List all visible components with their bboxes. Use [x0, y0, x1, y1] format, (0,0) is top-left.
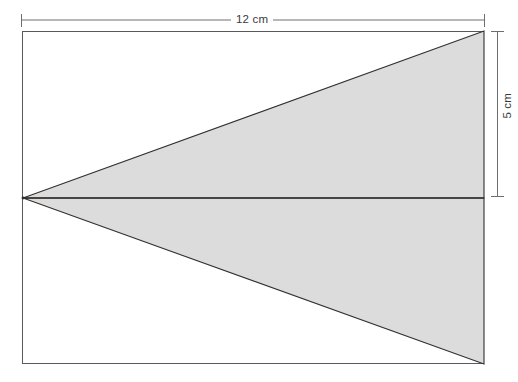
apex-point [22, 197, 25, 200]
width-dimension-label: 12 cm [231, 13, 273, 28]
geometry-figure: 12 cm 5 cm [0, 0, 518, 382]
height-dimension-label: 5 cm [500, 89, 516, 123]
figure-canvas [0, 0, 518, 382]
